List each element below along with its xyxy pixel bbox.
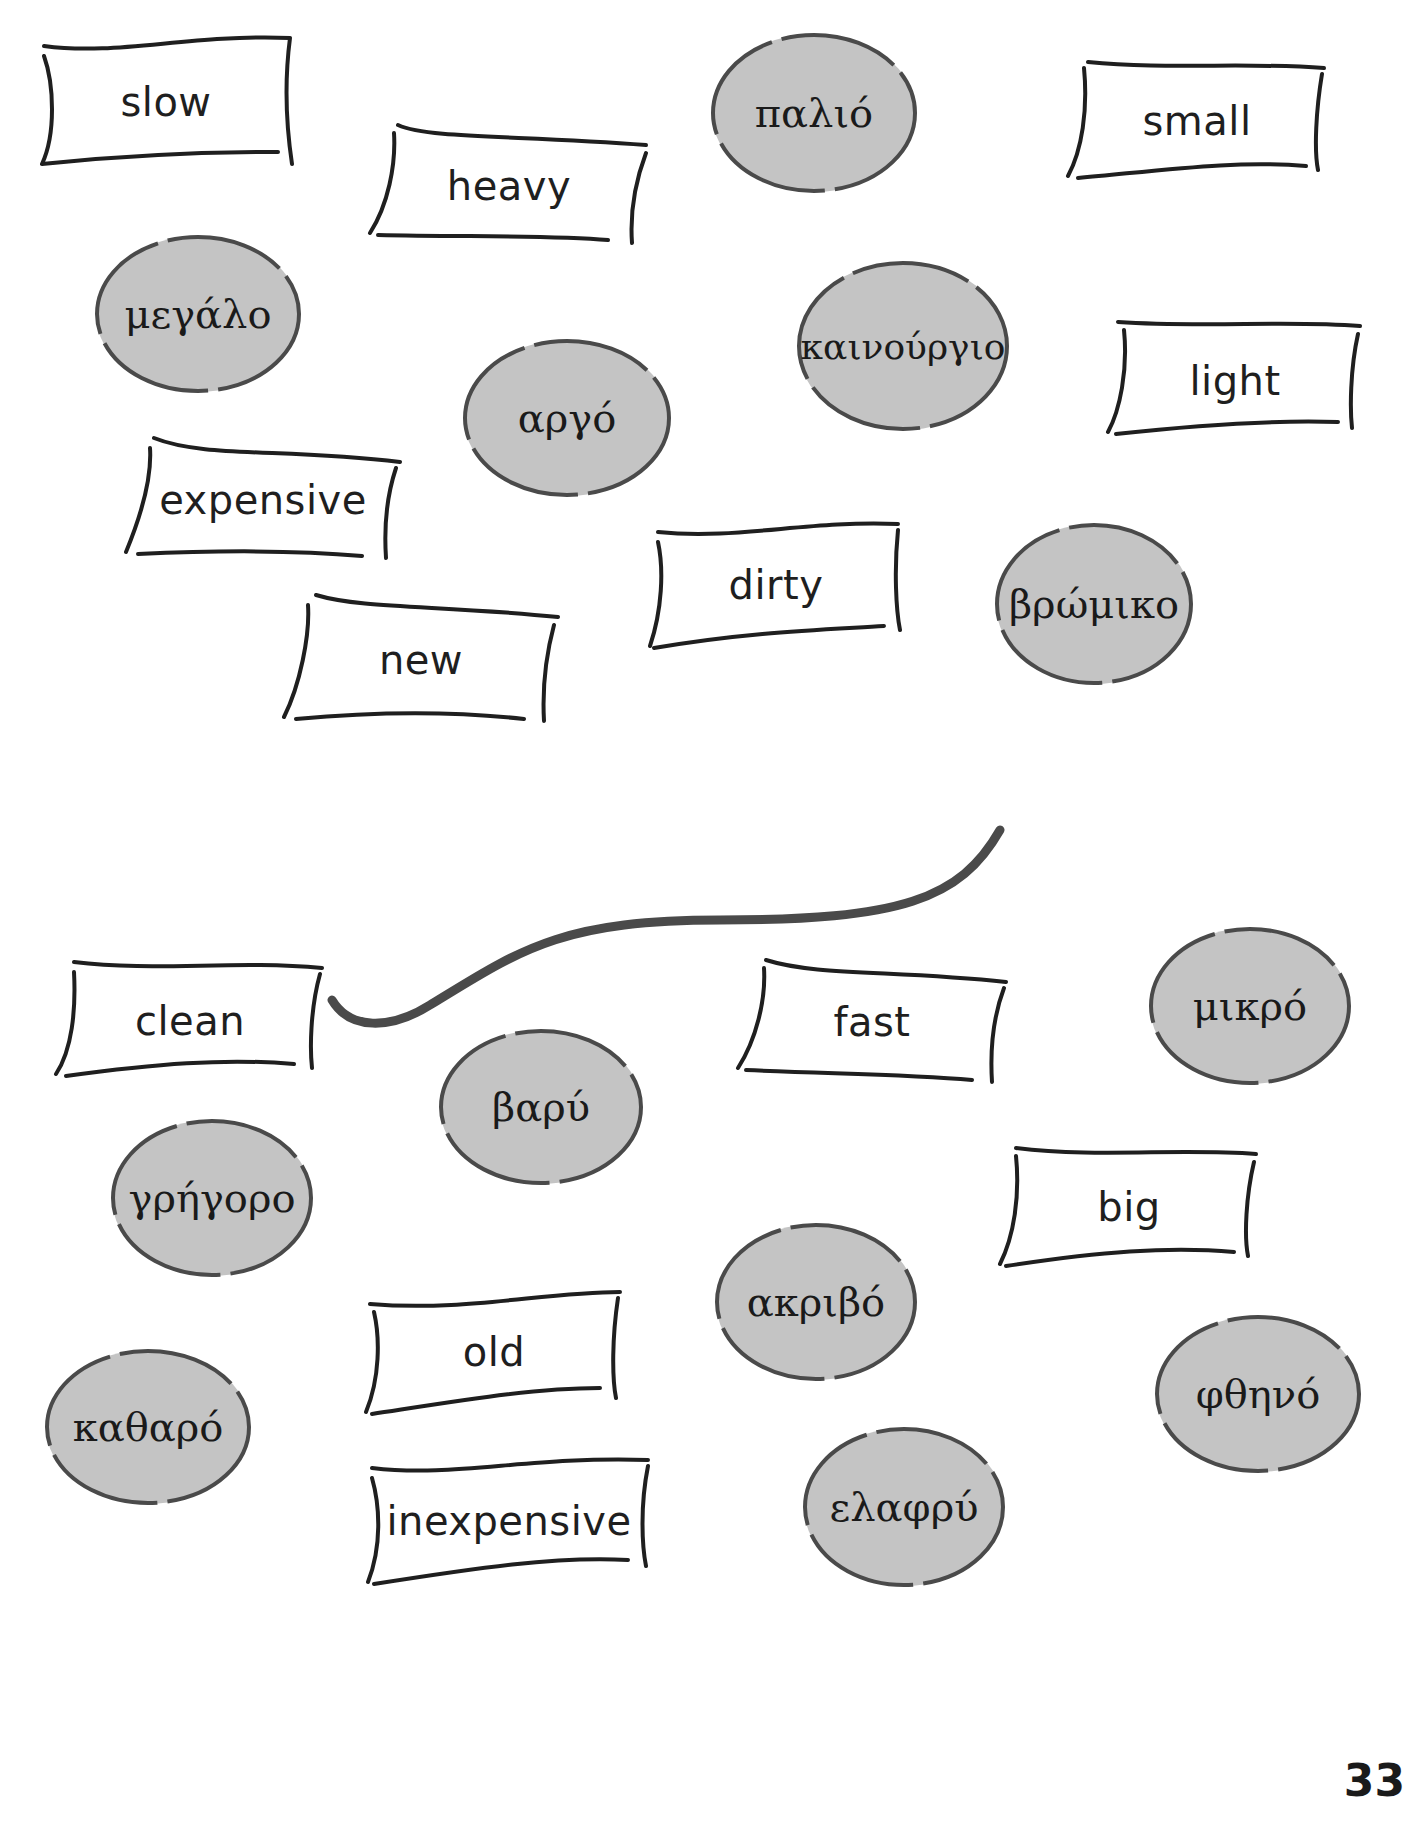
word-card-label: small: [1066, 98, 1328, 144]
word-disc-label: μικρό: [1150, 983, 1350, 1029]
word-card-old[interactable]: old: [364, 1288, 624, 1416]
page-number: 33: [1344, 1755, 1405, 1806]
word-disc-vary[interactable]: βαρύ: [440, 1030, 642, 1184]
word-card-label: inexpensive: [366, 1498, 652, 1544]
word-disc-argo[interactable]: αργό: [464, 340, 670, 496]
word-card-label: light: [1106, 358, 1364, 404]
word-disc-megalo[interactable]: μεγάλο: [96, 236, 300, 392]
word-disc-kainourgio[interactable]: καινούργιο: [798, 262, 1008, 430]
word-disc-label: φθηνό: [1156, 1371, 1360, 1417]
word-disc-label: βαρύ: [440, 1084, 642, 1130]
word-disc-akrivo[interactable]: ακριβό: [716, 1224, 916, 1380]
word-card-dirty[interactable]: dirty: [648, 520, 904, 650]
word-disc-label: αργό: [464, 395, 670, 441]
word-disc-label: ακριβό: [716, 1279, 916, 1325]
word-disc-label: καινούργιο: [798, 326, 1008, 367]
word-card-label: fast: [736, 999, 1008, 1045]
word-card-inexpensive[interactable]: inexpensive: [366, 1456, 652, 1586]
word-disc-elafry[interactable]: ελαφρύ: [804, 1428, 1004, 1586]
word-card-label: slow: [38, 79, 294, 125]
word-card-label: new: [282, 637, 560, 683]
word-disc-katharo[interactable]: καθαρό: [46, 1350, 250, 1504]
word-disc-mikro[interactable]: μικρό: [1150, 928, 1350, 1084]
word-card-label: heavy: [368, 163, 650, 209]
word-disc-label: παλιό: [712, 90, 916, 136]
word-card-label: dirty: [648, 562, 904, 608]
word-card-new[interactable]: new: [282, 595, 560, 725]
word-card-expensive[interactable]: expensive: [124, 438, 402, 562]
word-card-label: big: [998, 1184, 1260, 1230]
word-disc-label: καθαρό: [46, 1404, 250, 1450]
word-card-label: clean: [54, 998, 326, 1044]
word-disc-label: βρώμικο: [996, 581, 1192, 627]
word-card-slow[interactable]: slow: [38, 34, 294, 169]
word-card-heavy[interactable]: heavy: [368, 125, 650, 247]
word-disc-label: μεγάλο: [96, 291, 300, 337]
word-card-clean[interactable]: clean: [54, 960, 326, 1082]
word-disc-ftino[interactable]: φθηνό: [1156, 1316, 1360, 1472]
word-card-small[interactable]: small: [1066, 60, 1328, 182]
word-card-light[interactable]: light: [1106, 320, 1364, 442]
word-card-fast[interactable]: fast: [736, 960, 1008, 1084]
word-card-label: expensive: [124, 477, 402, 523]
word-disc-palio[interactable]: παλιό: [712, 34, 916, 192]
word-disc-label: ελαφρύ: [804, 1484, 1004, 1530]
word-card-label: old: [364, 1329, 624, 1375]
word-disc-label: γρήγορο: [112, 1175, 312, 1221]
word-disc-vromiko[interactable]: βρώμικο: [996, 524, 1192, 684]
word-disc-grigoro[interactable]: γρήγορο: [112, 1120, 312, 1276]
word-card-big[interactable]: big: [998, 1146, 1260, 1268]
